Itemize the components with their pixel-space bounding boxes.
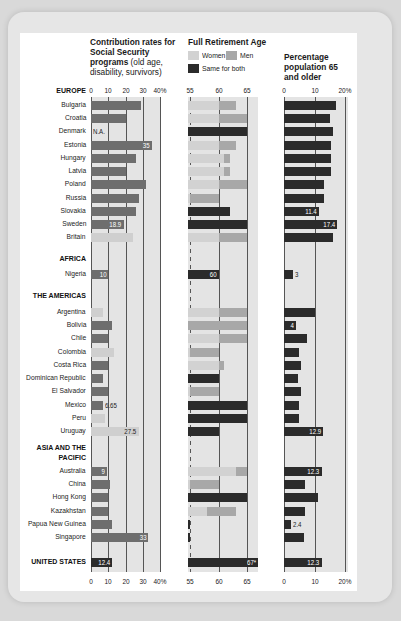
retirement-same-bar — [188, 401, 247, 410]
retirement-men-bar — [219, 308, 248, 317]
population-bar — [284, 387, 301, 396]
population-bar — [284, 520, 291, 529]
contribution-header: Contribution rates for Social Security p… — [90, 37, 180, 77]
country-label: Croatia — [64, 113, 86, 123]
contribution-bar — [91, 180, 146, 189]
population-value: 2.4 — [293, 520, 302, 529]
contribution-bar — [91, 207, 136, 216]
population-bar — [284, 270, 293, 279]
retirement-same-bar — [188, 207, 230, 216]
retirement-same-bar — [188, 414, 247, 423]
retirement-men-bar — [190, 348, 219, 357]
population-gridline — [345, 97, 346, 572]
population-bar — [284, 194, 324, 203]
country-label: Papua New Guinea — [28, 519, 86, 529]
population-bar — [284, 233, 333, 242]
population-bar — [284, 154, 331, 163]
contribution-value: 9 — [101, 467, 104, 476]
contribution-value: 35 — [143, 141, 150, 150]
population-bar — [284, 167, 331, 176]
population-bar — [284, 401, 299, 410]
country-label: Costa Rica — [53, 360, 86, 370]
contribution-tick-top: 40% — [154, 86, 167, 95]
population-tick-bottom: 20% — [339, 577, 352, 586]
population-bar — [284, 114, 330, 123]
population-value: 11.4 — [305, 207, 316, 216]
legend-same-swatch — [188, 64, 199, 73]
retirement-tick-bottom: 60 — [215, 577, 222, 586]
retirement-tick-top: 60 — [215, 86, 222, 95]
contribution-bar — [91, 167, 126, 176]
retirement-women-bar — [188, 141, 219, 150]
population-tick-bottom: 10 — [311, 577, 318, 586]
population-bar — [284, 414, 299, 423]
population-bar — [284, 308, 315, 317]
contribution-bar — [91, 480, 110, 489]
population-value: 4 — [291, 321, 294, 330]
country-label: Singapore — [56, 532, 86, 542]
retirement-tick-bottom: 55 — [186, 577, 193, 586]
country-label: El Salvador — [52, 386, 86, 396]
contribution-bar — [91, 401, 103, 410]
retirement-men-bar — [219, 114, 248, 123]
retirement-tick-bottom: 65 — [243, 577, 250, 586]
retirement-men-bar — [219, 180, 248, 189]
population-bar — [284, 507, 305, 516]
population-header: Percentage population 65 and older — [284, 52, 354, 82]
retirement-same-bar — [188, 533, 190, 542]
population-value: 12.3 — [308, 558, 320, 567]
contribution-bar — [91, 387, 108, 396]
contribution-tick-top: 30 — [139, 86, 146, 95]
country-label: Chile — [71, 333, 86, 343]
contribution-gridline — [126, 97, 127, 572]
population-bar — [284, 334, 307, 343]
population-tick-top: 0 — [282, 86, 286, 95]
country-label: Uruguay — [61, 426, 86, 436]
retirement-men-bar — [190, 387, 219, 396]
contribution-gridline — [160, 97, 161, 572]
population-bar — [284, 127, 333, 136]
contribution-bar — [91, 520, 112, 529]
population-bar — [284, 101, 336, 110]
country-label: Sweden — [62, 219, 86, 229]
country-label: Poland — [65, 179, 86, 189]
country-label: Estonia — [64, 140, 86, 150]
country-label: Denmark — [59, 126, 86, 136]
retirement-same-bar — [188, 520, 190, 529]
retirement-tick-top: 55 — [186, 86, 193, 95]
retirement-men-bar — [224, 154, 230, 163]
retirement-same-bar — [188, 427, 219, 436]
contribution-bar — [91, 233, 133, 242]
population-value: 3 — [295, 270, 298, 279]
population-bar — [284, 493, 318, 502]
retirement-women-bar — [188, 507, 207, 516]
contribution-tick-top: 10 — [105, 86, 112, 95]
contribution-bar — [91, 507, 108, 516]
contribution-tick-bottom: 0 — [89, 577, 93, 586]
retirement-same-bar — [188, 127, 247, 136]
contribution-value: N.A. — [93, 127, 105, 136]
population-tick-bottom: 0 — [282, 577, 286, 586]
contribution-tick-bottom: 30 — [139, 577, 146, 586]
retirement-same-bar — [188, 493, 247, 502]
contribution-value: 27.5 — [125, 427, 137, 436]
contribution-value: 18.9 — [110, 220, 122, 229]
retirement-men-bar — [219, 101, 236, 110]
country-label: China — [69, 479, 86, 489]
retirement-women-bar — [188, 101, 219, 110]
country-label: Bolivia — [66, 320, 86, 330]
contribution-tick-top: 20 — [122, 86, 129, 95]
country-label: Dominican Republic — [27, 373, 86, 383]
retirement-men-bar — [219, 233, 248, 242]
contribution-bar — [91, 154, 136, 163]
contribution-bar — [91, 493, 108, 502]
contribution-bar — [91, 334, 108, 343]
legend-same-label: Same for both — [202, 64, 245, 73]
retirement-women-bar — [188, 154, 224, 163]
retirement-women-bar — [188, 467, 236, 476]
population-value: 12.9 — [309, 427, 321, 436]
contribution-bar — [91, 321, 112, 330]
region-header-africa: AFRICA — [5, 254, 86, 264]
contribution-bar — [91, 114, 126, 123]
population-tick-top: 10 — [311, 86, 318, 95]
